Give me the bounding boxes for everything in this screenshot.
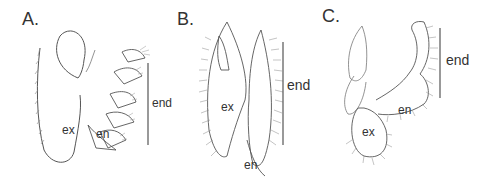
label-ex-b: ex	[221, 100, 234, 114]
appendage-drawing-a	[0, 0, 165, 186]
scale-label-c: end	[446, 52, 469, 68]
label-en-b: en	[244, 158, 257, 172]
panel-a: A. ex en end	[0, 0, 165, 186]
appendage-drawing-b	[165, 0, 320, 186]
label-en-c: en	[398, 103, 411, 117]
label-ex-c: ex	[362, 125, 375, 139]
label-en-a: en	[96, 127, 109, 141]
panel-b: B. ex en end	[165, 0, 320, 186]
panel-c: C. ex en end	[320, 0, 490, 186]
appendage-drawing-c	[320, 0, 490, 186]
label-ex-a: ex	[62, 123, 75, 137]
scale-label-b: end	[287, 77, 310, 93]
